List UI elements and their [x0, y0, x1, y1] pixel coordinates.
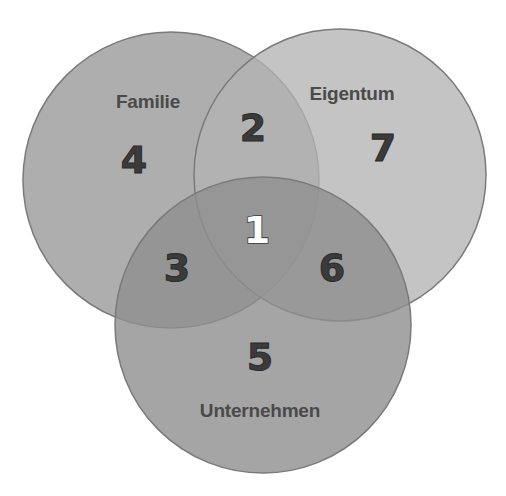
venn-diagram: Familie Eigentum Unternehmen 1 2 3 4 5 6… — [0, 0, 506, 496]
label-familie: Familie — [116, 91, 180, 112]
region-number-familie-unternehmen: 3 — [164, 246, 190, 290]
region-number-center: 1 — [244, 208, 270, 252]
region-number-familie-eigentum: 2 — [240, 106, 266, 150]
label-eigentum: Eigentum — [310, 83, 395, 104]
region-number-eigentum: 7 — [370, 126, 396, 170]
region-number-eigentum-unternehmen: 6 — [319, 246, 345, 290]
region-number-unternehmen: 5 — [247, 335, 273, 379]
region-number-familie: 4 — [121, 138, 147, 182]
label-unternehmen: Unternehmen — [200, 400, 320, 421]
